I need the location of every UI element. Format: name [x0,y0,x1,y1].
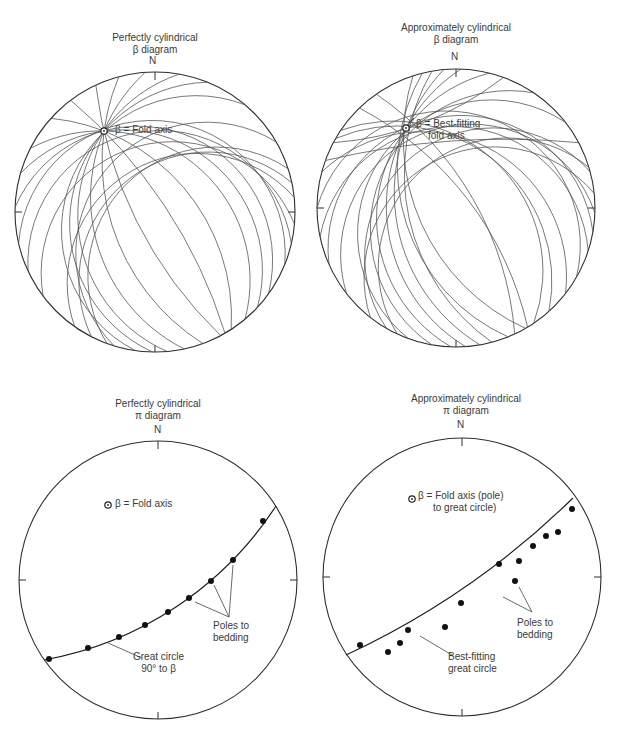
great-circle-arc [333,77,503,142]
pole-to-bedding-dot [543,533,549,539]
leader-line [229,565,233,617]
fold-axis-dot-icon [107,504,109,506]
great-circle-arc [71,100,225,333]
stereonet-pi-approx [323,438,601,716]
pole-to-bedding-dot [165,609,171,615]
pole-to-bedding-dot [142,622,148,628]
stereonet-beta-perfect [15,72,295,352]
pole-to-bedding-dot [569,506,575,512]
primitive-circle [317,69,595,347]
pole-to-bedding-dot [405,627,411,633]
pole-to-bedding-dot [442,624,448,630]
great-circle-arc [70,82,208,352]
stereonet-beta-approx [317,69,595,347]
fold-axis-dot-icon [103,130,105,132]
pole-to-bedding-dot [46,656,52,662]
leader-line [108,643,142,658]
primitive-circle [15,72,295,352]
leader-line [214,585,229,617]
great-circle-arc [91,72,185,349]
pole-to-bedding-dot [357,642,363,648]
pole-to-bedding-dot [230,557,236,563]
stereonet-figure [0,0,618,733]
pole-to-bedding-dot [385,649,391,655]
pole-to-bedding-dot [512,578,518,584]
fold-axis-dot-icon [411,498,413,500]
great-circle-arc [378,138,589,334]
great-circle-90-to-beta [44,506,276,660]
fold-axis-dot-icon [405,127,407,129]
best-fitting-great-circle [346,498,573,655]
pole-to-bedding-dot [260,518,266,524]
great-circle-arc [403,76,525,329]
leader-line [195,602,229,617]
stereonet-pi-perfect [19,441,297,719]
pole-to-bedding-dot [208,578,214,584]
pole-to-bedding-dot [85,645,91,651]
pole-to-bedding-dot [555,529,561,535]
pole-to-bedding-dot [530,543,536,549]
pole-to-bedding-dot [116,634,122,640]
pole-to-bedding-dot [458,600,464,606]
great-circle-arc [102,77,203,344]
pole-to-bedding-dot [186,595,192,601]
primitive-circle [19,441,297,719]
great-circle-arc [78,74,180,351]
pole-to-bedding-dot [397,640,403,646]
great-circle-arc [30,131,250,319]
pole-to-bedding-dot [496,561,502,567]
leader-line [420,636,452,655]
great-circle-arc [67,153,294,326]
primitive-circle [323,438,601,716]
pole-to-bedding-dot [516,558,522,564]
